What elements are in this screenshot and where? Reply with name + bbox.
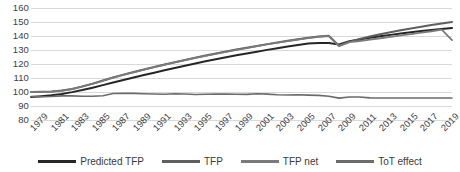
legend-item-predicted-tfp[interactable]: Predicted TFP [38,156,144,167]
tfp-line-chart: 1601501401301201101009080 19791981198319… [0,0,460,172]
x-axis: 1979198119831985198719891991199319951997… [0,0,460,50]
y-tick-label: 90 [3,101,29,110]
legend-label: ToT effect [378,156,422,167]
legend-swatch-icon [336,160,374,163]
legend-label: TFP [204,156,223,167]
legend-label: Predicted TFP [80,156,144,167]
legend-swatch-icon [38,160,76,163]
legend-item-tfp-net[interactable]: TFP net [241,156,318,167]
chart-legend: Predicted TFPTFPTFP netToT effect [0,152,460,170]
y-tick-label: 80 [3,115,29,124]
legend-label: TFP net [283,156,318,167]
y-tick-label: 110 [3,73,29,82]
legend-swatch-icon [162,160,200,163]
legend-swatch-icon [241,160,279,163]
legend-item-tot-effect[interactable]: ToT effect [336,156,422,167]
legend-item-tfp[interactable]: TFP [162,156,223,167]
series-line-tot-effect [31,93,452,98]
y-tick-label: 120 [3,59,29,68]
y-tick-label: 100 [3,87,29,96]
